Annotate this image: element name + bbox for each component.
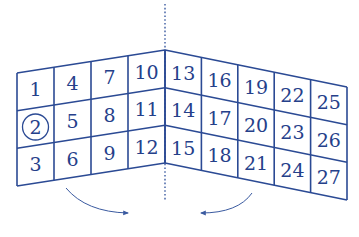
grid-cell-number: 18: [208, 144, 232, 166]
left-fold-arrow: [66, 188, 128, 213]
grid-numbers: 1234567891011121314151617181920212223242…: [29, 61, 340, 189]
grid-cell-number: 10: [134, 61, 158, 83]
grid-cell-number: 24: [280, 159, 304, 181]
grid-cell-number: 22: [280, 84, 304, 106]
grid-cell-number: 27: [317, 166, 341, 188]
grid-cell-number: 1: [29, 78, 41, 100]
grid-cell-number: 16: [208, 69, 232, 91]
folded-grid-diagram: 1234567891011121314151617181920212223242…: [0, 0, 359, 237]
grid-cell-number: 7: [103, 66, 115, 88]
grid-cell-number: 13: [171, 62, 195, 84]
grid-cell-number: 9: [103, 142, 115, 164]
grid-cell-number: 21: [244, 152, 268, 174]
grid-cell-number: 20: [244, 114, 268, 136]
grid-cell-number: 15: [171, 137, 195, 159]
grid-cell-number: 23: [280, 121, 304, 143]
right-fold-arrow: [201, 193, 252, 213]
grid-cell-number: 26: [317, 129, 341, 151]
grid-cell-number: 12: [134, 136, 158, 158]
grid-cell-number: 6: [66, 148, 78, 170]
grid-cell-number: 2: [29, 116, 41, 138]
grid-cell-number: 5: [66, 110, 78, 132]
grid-cell-number: 25: [317, 91, 341, 113]
grid-cell-number: 19: [244, 76, 268, 98]
grid-cell-number: 8: [103, 104, 115, 126]
grid-cell-number: 11: [134, 98, 158, 120]
grid-cell-number: 17: [208, 107, 232, 129]
grid-cell-number: 14: [171, 99, 195, 121]
grid-cell-number: 4: [66, 72, 78, 94]
grid-cell-number: 3: [29, 153, 41, 175]
